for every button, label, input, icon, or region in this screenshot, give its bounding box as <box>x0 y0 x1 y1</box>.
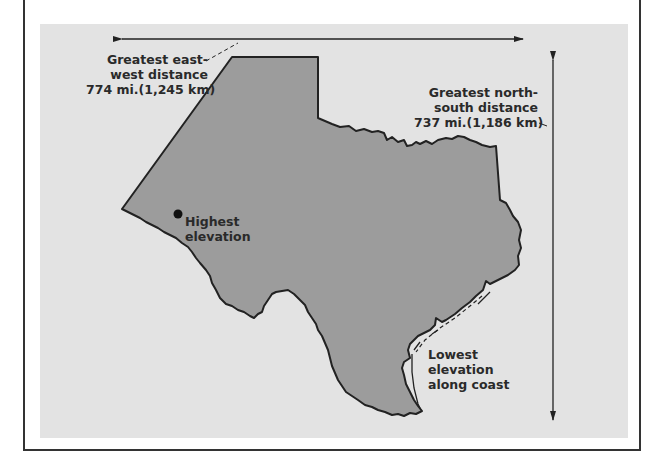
north-south-label-line2: south distance <box>414 100 538 115</box>
highest-elevation-marker <box>174 210 183 219</box>
north-south-label: Greatest north- south distance 737 mi.(1… <box>414 85 538 130</box>
east-west-label-line1: Greatest east- <box>86 52 208 67</box>
highest-elevation-label-line2: elevation <box>185 229 251 244</box>
lowest-elevation-label-line3: along coast <box>428 377 509 392</box>
north-south-label-line3: 737 mi.(1,186 km) <box>414 115 538 130</box>
lowest-elevation-label-line1: Lowest <box>428 347 509 362</box>
east-west-label: Greatest east- west distance 774 mi.(1,2… <box>86 52 208 97</box>
east-west-label-line3: 774 mi.(1,245 km) <box>86 82 208 97</box>
lowest-elevation-label: Lowest elevation along coast <box>428 347 509 392</box>
lowest-elevation-label-line2: elevation <box>428 362 509 377</box>
highest-elevation-label-line1: Highest <box>185 214 251 229</box>
highest-elevation-label: Highest elevation <box>185 214 251 244</box>
north-south-label-line1: Greatest north- <box>414 85 538 100</box>
east-west-label-line2: west distance <box>86 67 208 82</box>
